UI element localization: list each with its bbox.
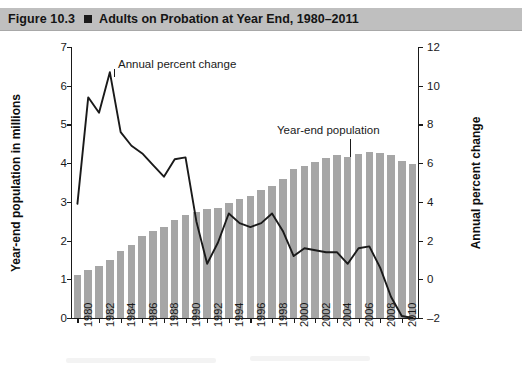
- x-tick-1992: [207, 318, 208, 323]
- x-tick-label-2008: 2008: [385, 303, 397, 327]
- right-tick-label-–2: –2: [427, 312, 440, 324]
- x-tick-1994: [229, 318, 230, 323]
- right-tick-label-2: 2: [427, 235, 433, 247]
- x-tick-1988: [164, 318, 165, 323]
- right-tick-label-4: 4: [427, 196, 433, 208]
- x-tick-1986: [142, 318, 143, 323]
- x-tick-2000: [294, 318, 295, 323]
- left-tick-1: [67, 279, 72, 280]
- x-tick-1982: [99, 318, 100, 323]
- scan-artifact: [66, 358, 216, 363]
- x-tick-label-2000: 2000: [298, 303, 310, 327]
- figure-container: Figure 10.3 Adults on Probation at Year …: [0, 0, 522, 368]
- x-tick-2002: [315, 318, 316, 323]
- chart-plot-area: 01234567 –2024681012 1980198219841986198…: [72, 47, 418, 318]
- left-tick-label-3: 3: [61, 196, 67, 208]
- right-axis-title: Annual percent change: [469, 116, 483, 249]
- x-tick-label-1998: 1998: [277, 303, 289, 327]
- x-tick-label-2004: 2004: [341, 303, 353, 327]
- square-bullet-icon: [84, 15, 92, 23]
- x-tick-label-1982: 1982: [104, 303, 116, 327]
- right-tick-–2: [418, 318, 423, 319]
- x-tick-label-1992: 1992: [212, 303, 224, 327]
- x-tick-label-2006: 2006: [363, 303, 375, 327]
- left-tick-label-0: 0: [61, 312, 67, 324]
- left-tick-3: [67, 202, 72, 203]
- line-series-layer: [72, 47, 418, 318]
- left-tick-7: [67, 47, 72, 48]
- left-tick-label-7: 7: [61, 41, 67, 53]
- figure-title-bar: Figure 10.3 Adults on Probation at Year …: [0, 8, 522, 30]
- right-tick-label-8: 8: [427, 118, 433, 130]
- left-tick-0: [67, 318, 72, 319]
- x-tick-label-1994: 1994: [233, 303, 245, 327]
- annotation-leader-line-right: [350, 139, 351, 157]
- x-tick-1996: [250, 318, 251, 323]
- annual-percent-change-line: [77, 72, 412, 318]
- right-tick-2: [418, 241, 423, 242]
- x-tick-label-1986: 1986: [147, 303, 159, 327]
- left-tick-label-1: 1: [61, 273, 67, 285]
- left-tick-label-5: 5: [61, 118, 67, 130]
- right-tick-label-6: 6: [427, 157, 433, 169]
- annotation-leader-line-left: [114, 69, 115, 77]
- right-tick-label-12: 12: [427, 41, 440, 53]
- right-tick-label-10: 10: [427, 80, 440, 92]
- right-tick-0: [418, 279, 423, 280]
- scan-artifact: [250, 356, 370, 361]
- right-tick-12: [418, 47, 423, 48]
- right-tick-8: [418, 124, 423, 125]
- x-tick-label-1980: 1980: [82, 303, 94, 327]
- x-tick-2010: [402, 318, 403, 323]
- left-tick-5: [67, 124, 72, 125]
- right-axis-line: [418, 47, 419, 318]
- x-tick-label-2010: 2010: [406, 303, 418, 327]
- right-tick-label-0: 0: [427, 273, 433, 285]
- x-tick-label-1984: 1984: [125, 303, 137, 327]
- x-tick-label-1996: 1996: [255, 303, 267, 327]
- left-tick-2: [67, 241, 72, 242]
- figure-title: Adults on Probation at Year End, 1980–20…: [99, 12, 359, 26]
- left-tick-label-4: 4: [61, 157, 67, 169]
- x-tick-1998: [272, 318, 273, 323]
- x-tick-label-2002: 2002: [320, 303, 332, 327]
- x-tick-1984: [121, 318, 122, 323]
- left-tick-4: [67, 163, 72, 164]
- right-tick-4: [418, 202, 423, 203]
- annotation-annual-percent-change: Annual percent change: [118, 58, 236, 70]
- x-tick-1980: [77, 318, 78, 323]
- x-tick-2008: [380, 318, 381, 323]
- x-tick-label-1988: 1988: [168, 303, 180, 327]
- figure-number: Figure 10.3: [8, 12, 75, 26]
- right-tick-6: [418, 163, 423, 164]
- x-tick-2004: [337, 318, 338, 323]
- x-tick-1990: [186, 318, 187, 323]
- x-tick-label-1990: 1990: [190, 303, 202, 327]
- annotation-year-end-population: Year-end population: [277, 124, 380, 136]
- left-axis-title: Year-end population in millions: [9, 93, 23, 271]
- right-tick-10: [418, 86, 423, 87]
- left-tick-6: [67, 86, 72, 87]
- x-tick-2006: [359, 318, 360, 323]
- left-tick-label-6: 6: [61, 80, 67, 92]
- left-tick-label-2: 2: [61, 235, 67, 247]
